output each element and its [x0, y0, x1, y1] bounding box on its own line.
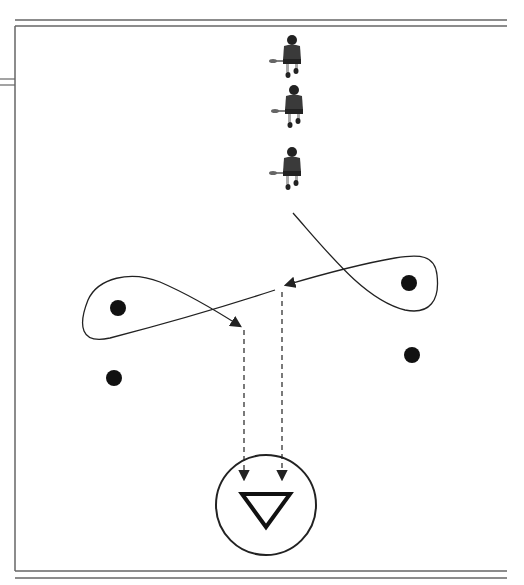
goal-crease	[216, 455, 316, 555]
shot-lines	[244, 292, 282, 479]
cone-icon	[106, 370, 122, 386]
drill-diagram	[0, 0, 524, 585]
player-icon	[269, 35, 301, 78]
cones	[106, 275, 420, 386]
cone-icon	[110, 300, 126, 316]
player-line	[269, 35, 303, 190]
cone-icon	[404, 347, 420, 363]
player-icon	[269, 147, 301, 190]
path-right-loop	[286, 213, 438, 311]
goal-triangle-icon	[242, 494, 290, 527]
player-icon	[271, 85, 303, 128]
run-path	[83, 213, 438, 339]
cone-icon	[401, 275, 417, 291]
crease-circle-icon	[216, 455, 316, 555]
